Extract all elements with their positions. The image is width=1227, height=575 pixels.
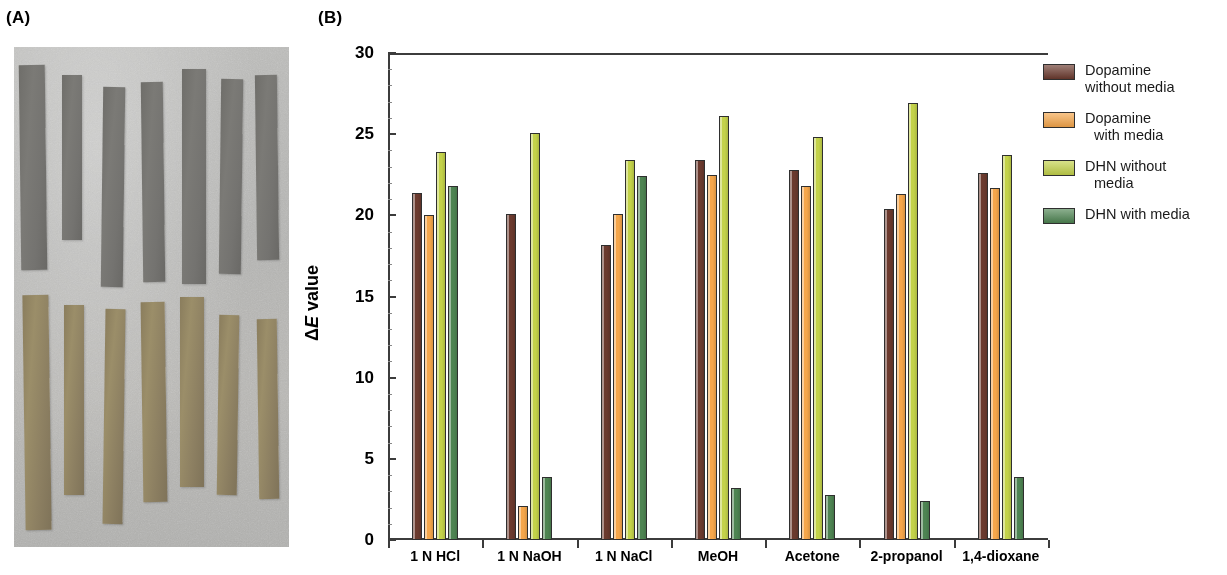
legend-item: Dopaminewith media [1043,110,1223,144]
bar [884,209,894,540]
y-tick-label: 5 [318,449,374,469]
bar [825,495,835,540]
legend-item: DHN with media [1043,206,1223,224]
legend-swatch [1043,160,1075,176]
bar [719,116,729,540]
bar [1002,155,1012,540]
bar [637,176,647,540]
x-tick-label: 2-propanol [870,548,942,564]
bar [601,245,611,540]
photo-strip-bottom [22,295,51,530]
legend-swatch [1043,112,1075,128]
bar [801,186,811,540]
bar-group [765,53,859,540]
bar [695,160,705,540]
photo-strip-bottom [257,319,280,499]
x-tick-label: 1 N HCl [410,548,460,564]
x-tick-mark [765,540,767,548]
photo-strip-bottom [64,305,84,495]
bar [424,215,434,540]
x-tick-mark [859,540,861,548]
legend-item: Dopaminewithout media [1043,62,1223,96]
bar [896,194,906,540]
photo-strip-bottom [217,315,240,495]
legend-label: Dopaminewith media [1085,110,1163,144]
x-tick-mark [388,540,390,548]
photo-strip-top [219,79,243,274]
photo-strip-top [141,82,165,282]
bar [908,103,918,540]
y-tick-label: 20 [318,205,374,225]
x-tick-label: Acetone [785,548,840,564]
x-tick-label: 1 N NaOH [497,548,562,564]
bar [978,173,988,540]
panel-b-label: (B) [318,8,343,28]
x-tick-mark [482,540,484,548]
bar [707,175,717,540]
bar [1014,477,1024,540]
legend-label: Dopaminewithout media [1085,62,1174,96]
bar [920,501,930,540]
photo-strip-bottom [103,309,126,524]
bar-group [577,53,671,540]
bar [542,477,552,540]
y-tick-label: 30 [318,43,374,63]
photo-strip-bottom [180,297,204,487]
bar [990,188,1000,540]
bar [436,152,446,540]
bar-chart: ΔE value 051015202530 1 N HCl1 N NaOH1 N… [318,30,1078,575]
bar [613,214,623,540]
bar-group [482,53,576,540]
y-tick-label: 15 [318,287,374,307]
bar [448,186,458,540]
photo-strip-top [62,75,82,240]
legend-swatch [1043,208,1075,224]
bar-group [859,53,953,540]
x-tick-mark [577,540,579,548]
x-tick-mark [954,540,956,548]
bar [530,133,540,540]
bar-group [954,53,1048,540]
bar [412,193,422,540]
x-tick-mark [1048,540,1050,548]
panel-a-label: (A) [6,8,31,28]
legend-swatch [1043,64,1075,80]
chart-legend: Dopaminewithout mediaDopaminewith mediaD… [1043,62,1223,238]
y-tick-label: 10 [318,368,374,388]
photo-strip-top [255,75,279,260]
x-tick-label: 1,4-dioxane [962,548,1039,564]
photo-strip-bottom [141,302,168,502]
y-tick-label: 0 [318,530,374,550]
x-tick-label: 1 N NaCl [595,548,653,564]
legend-label: DHN withoutmedia [1085,158,1166,192]
photo-strip-top [19,65,48,270]
photo-strip-top [101,87,125,287]
bar-group [388,53,482,540]
bar [625,160,635,540]
bar [731,488,741,540]
legend-label: DHN with media [1085,206,1190,223]
bar [813,137,823,540]
photo-strip-top [182,69,206,284]
bar [789,170,799,540]
bar [506,214,516,540]
bar-group [671,53,765,540]
bar [518,506,528,540]
panel-a-photograph [14,47,289,547]
y-tick-label: 25 [318,124,374,144]
legend-item: DHN withoutmedia [1043,158,1223,192]
x-tick-label: MeOH [698,548,738,564]
x-tick-mark [671,540,673,548]
